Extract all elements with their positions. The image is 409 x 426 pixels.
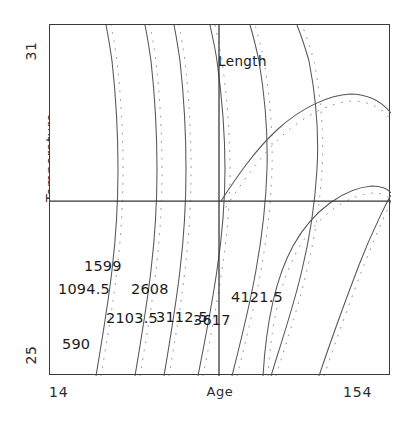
x-axis-tick-max: 154 bbox=[343, 384, 372, 400]
contour-line-3617-arch bbox=[221, 94, 391, 207]
contour-line-3617 bbox=[319, 195, 391, 376]
contour-label-2103-5: 2103.5 bbox=[106, 311, 158, 326]
contour-label-4121-5: 4121.5 bbox=[231, 290, 283, 305]
contour-label-3617: 3617 bbox=[193, 313, 231, 328]
y-axis-tick-min: 25 bbox=[23, 338, 39, 372]
contour-label-1599: 1599 bbox=[84, 259, 122, 274]
plot-title: Length bbox=[218, 53, 267, 69]
contour-label-590: 590 bbox=[62, 337, 90, 352]
contour-line-4121-5-arch bbox=[263, 186, 391, 376]
contour-plot-figure: Temperature 31 25 Age 14 154 .cline{fill… bbox=[0, 0, 409, 426]
contour-label-1094-5: 1094.5 bbox=[58, 282, 110, 297]
y-axis-tick-max: 31 bbox=[23, 34, 39, 68]
x-axis-tick-min: 14 bbox=[49, 384, 68, 400]
contour-label-2608: 2608 bbox=[131, 282, 169, 297]
x-axis-title: Age bbox=[170, 384, 270, 399]
